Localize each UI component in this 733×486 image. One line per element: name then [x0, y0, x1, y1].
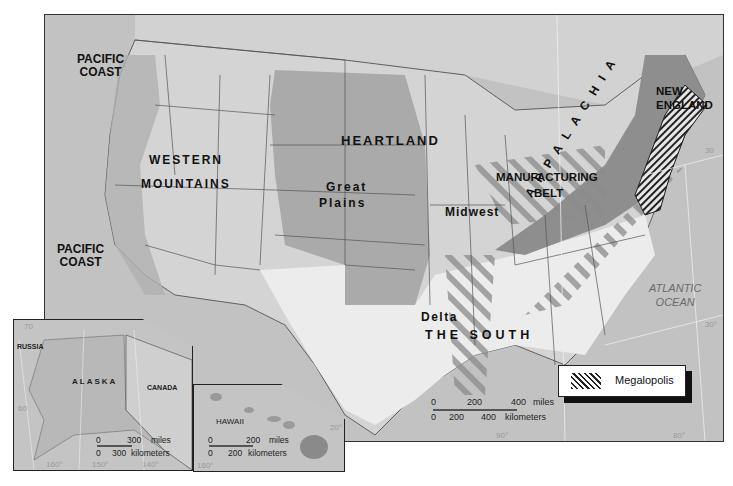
scale-miles-200: 200: [246, 435, 260, 445]
scale-miles-unit: miles: [269, 435, 289, 445]
scale-km-200: 200: [228, 448, 242, 458]
map-scale: 0 200 400 miles 0 200 400 kilometers: [431, 397, 571, 427]
ocean-line2: OCEAN: [649, 295, 701, 309]
label-pacific-coast-north: PACIFIC COAST: [77, 53, 124, 78]
scale-km-0: 0: [208, 448, 213, 458]
scale-bar: [97, 445, 132, 447]
scale-km-unit: kilometers: [248, 448, 287, 458]
alaska-inset: RUSSIA ALASKA CANADA 0 300 miles 0 300 k…: [13, 319, 193, 471]
scale-miles-300: 300: [127, 435, 141, 445]
label-alaska: ALASKA: [72, 377, 117, 386]
scale-miles-0: 0: [96, 435, 101, 445]
scale-km-unit: kilometers: [505, 412, 546, 422]
label-text: PACIFIC COAST: [57, 242, 104, 269]
scale-miles-400: 400: [511, 397, 526, 407]
label-pacific-coast-south: PACIFIC COAST: [57, 243, 104, 268]
scale-km-0: 0: [431, 412, 436, 422]
label-great: Great: [326, 181, 367, 194]
ocean-line1: ATLANTIC: [649, 281, 701, 295]
degree-lat30-top: 30: [705, 146, 714, 155]
degree-lon150: 150°: [92, 460, 109, 469]
label-russia: RUSSIA: [17, 343, 43, 350]
label-western: WESTERN: [149, 154, 223, 167]
degree-lon160: 160°: [46, 460, 63, 469]
scale-km-0: 0: [96, 448, 101, 458]
degree-lat20: 20°: [330, 423, 342, 432]
label-hawaii: HAWAII: [216, 417, 244, 426]
scale-km-300: 300: [112, 448, 126, 458]
label-delta: Delta: [421, 311, 458, 324]
label-plains: Plains: [319, 197, 366, 210]
label-text: PACIFIC COAST: [77, 52, 124, 79]
label-heartland: HEARTLAND: [341, 134, 440, 148]
degree-lon140: 140°: [142, 460, 159, 469]
scale-km-200: 200: [449, 412, 464, 422]
degree-lon160: 160°: [197, 461, 214, 470]
degree-lon80: 80°: [673, 431, 685, 440]
legend-label: Megalopolis: [615, 374, 674, 386]
label-the-south: THE SOUTH: [425, 329, 533, 342]
degree-lat60: 60: [18, 404, 27, 413]
degree-lat70: 70: [24, 322, 33, 331]
scale-miles-0: 0: [208, 435, 213, 445]
hatch-swatch-icon: [571, 373, 601, 389]
label-mountains: MOUNTAINS: [141, 178, 231, 191]
scale-km-400: 400: [481, 412, 496, 422]
scale-miles-unit: miles: [151, 435, 171, 445]
scale-miles-unit: miles: [533, 397, 554, 407]
scale-bar: [209, 445, 253, 447]
label-england: ENGLAND: [656, 99, 713, 111]
scale-miles-0: 0: [431, 397, 436, 407]
scale-miles-200: 200: [467, 397, 482, 407]
scale-km-unit: kilometers: [131, 448, 170, 458]
degree-lon90: 90°: [496, 431, 508, 440]
scale-bar: [433, 409, 517, 411]
hawaii-scale: 0 200 miles 0 200 kilometers: [206, 435, 306, 465]
label-atlantic-ocean: ATLANTIC OCEAN: [649, 281, 701, 310]
degree-lat30-right: 30°: [705, 320, 717, 329]
label-midwest: Midwest: [445, 206, 499, 219]
legend-megalopolis: Megalopolis: [558, 365, 686, 397]
label-new: NEW: [656, 85, 683, 97]
label-canada: CANADA: [147, 384, 177, 391]
